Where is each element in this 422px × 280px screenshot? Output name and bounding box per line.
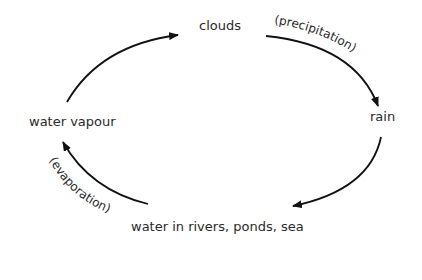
cycle-arrows: (precipitation) (evaporation) [0,0,422,280]
arrow-rain-to-water [293,137,381,206]
arrow-clouds-to-rain [266,36,378,106]
node-clouds: clouds [199,19,241,32]
node-water-bodies: water in rivers, ponds, sea [131,220,304,233]
arrow-vapour-to-clouds [67,35,178,102]
node-rain: rain [370,110,395,123]
water-cycle-diagram: (precipitation) (evaporation) clouds rai… [0,0,422,280]
node-water-vapour: water vapour [29,115,116,128]
precipitation-label: (precipitation) [274,13,360,55]
